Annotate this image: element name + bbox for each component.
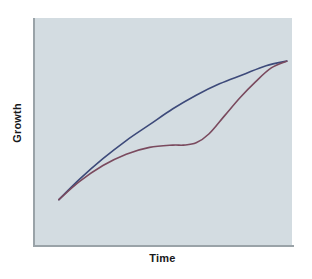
series-line-smooth-growth-curve [59,61,287,199]
y-axis-label-text: Growth [11,103,23,143]
x-axis-label: Time [33,252,292,264]
chart-curves [33,18,292,245]
x-axis-line [33,245,294,247]
series-line-plateau-growth-curve [59,61,287,199]
chart-figure: Growth Time [0,0,312,279]
y-axis-label: Growth [0,0,33,245]
